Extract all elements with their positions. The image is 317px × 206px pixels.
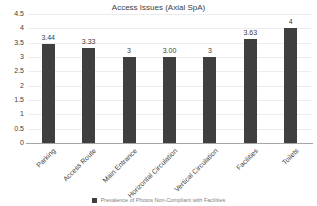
y-axis-tick-label: 4: [2, 24, 24, 32]
legend-label: Prevalence of Photos Non-Compliant with …: [101, 197, 226, 203]
y-axis-tick-label: 0.5: [2, 125, 24, 133]
bar: [163, 57, 176, 143]
y-axis-tick-label: 2.5: [2, 67, 24, 75]
bar: [42, 44, 55, 143]
bar: [123, 57, 136, 143]
x-axis-line: [26, 143, 313, 144]
chart-title: Access Issues (Axial SpA): [0, 3, 317, 12]
legend: Prevalence of Photos Non-Compliant with …: [0, 197, 317, 203]
x-axis-category-label: Facilities: [235, 147, 260, 172]
bar-value-label: 3.33: [69, 37, 109, 46]
gridline: [28, 14, 311, 15]
x-axis-category-label: Vertical Circulation: [173, 147, 220, 194]
y-axis-tick-label: 2: [2, 82, 24, 90]
bar: [82, 48, 95, 143]
bar-chart: Access Issues (Axial SpA) Prevalence of …: [0, 0, 317, 206]
x-axis-category-label: Main Entrance: [101, 147, 139, 185]
bar-value-label: 3.44: [28, 33, 68, 42]
y-axis-tick-label: 3.5: [2, 39, 24, 47]
bar: [244, 39, 257, 143]
x-axis-category-label: Parking: [35, 147, 57, 169]
y-axis-tick-label: 0: [2, 139, 24, 147]
y-axis-tick-label: 1: [2, 110, 24, 118]
bar: [284, 28, 297, 143]
bar-value-label: 3: [109, 46, 149, 55]
y-axis-tick-label: 3: [2, 53, 24, 61]
x-axis-category-label: Toilets: [281, 147, 301, 167]
y-axis-tick-label: 4.5: [2, 10, 24, 18]
bar: [203, 57, 216, 143]
bar-value-label: 3.63: [230, 28, 270, 37]
bar-value-label: 4: [271, 17, 311, 26]
bar-value-label: 3: [190, 46, 230, 55]
y-axis-tick-label: 1.5: [2, 96, 24, 104]
x-axis-category-label: Access Route: [62, 147, 98, 183]
legend-square-marker-icon: [92, 198, 97, 203]
bar-value-label: 3.00: [150, 46, 190, 55]
